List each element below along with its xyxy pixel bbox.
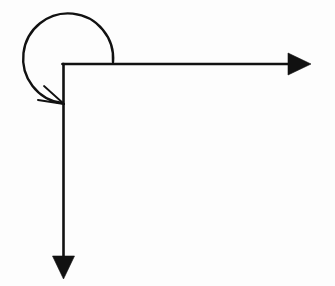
diagram-background xyxy=(0,0,335,286)
diagram-canvas-root xyxy=(0,0,335,286)
arrow-diagram-svg xyxy=(0,0,335,286)
